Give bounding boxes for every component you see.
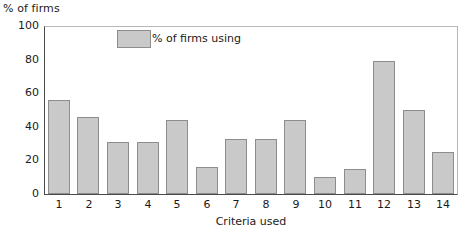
legend-label-pct-firms-using: % of firms using (152, 32, 241, 45)
y-axis-tick-labels: 020406080100 (0, 0, 40, 241)
y-axis-tick-label: 80 (0, 54, 39, 65)
x-axis-tick-label: 8 (251, 198, 281, 211)
bar (403, 110, 425, 194)
bar (166, 120, 188, 194)
bar (284, 120, 306, 194)
bar (107, 142, 129, 194)
bar-chart: % of firms 020406080100 % of firms using… (0, 0, 472, 241)
x-axis-tick-label: 4 (133, 198, 163, 211)
x-axis-tick-label: 5 (162, 198, 192, 211)
x-axis-tick-label: 7 (221, 198, 251, 211)
x-axis-tick-label: 13 (399, 198, 429, 211)
x-axis-tick-label: 11 (340, 198, 370, 211)
bar (432, 152, 454, 194)
x-axis-tick-label: 1 (44, 198, 74, 211)
y-axis-tick-label: 60 (0, 87, 39, 98)
x-axis-title: Criteria used (44, 215, 458, 228)
bar (77, 117, 99, 194)
bars-layer (44, 26, 458, 195)
legend-swatch-pct-firms-using (117, 30, 151, 48)
x-axis-tick-label: 6 (192, 198, 222, 211)
y-axis-tick-label: 0 (0, 188, 39, 199)
bar (344, 169, 366, 194)
y-axis-tick-label: 40 (0, 121, 39, 132)
legend: % of firms using (117, 29, 241, 48)
bar (48, 100, 70, 194)
bar (314, 177, 336, 194)
x-axis-tick-label: 12 (369, 198, 399, 211)
x-axis-tick-label: 9 (281, 198, 311, 211)
bar (196, 167, 218, 194)
x-axis-tick-label: 10 (310, 198, 340, 211)
bar (225, 139, 247, 194)
bar (373, 61, 395, 194)
y-axis-tick-label: 100 (0, 20, 39, 31)
y-axis-tick-label: 20 (0, 154, 39, 165)
x-axis-tick-label: 3 (103, 198, 133, 211)
x-axis-tick-label: 2 (74, 198, 104, 211)
x-axis-tick-labels: 1234567891011121314 (44, 198, 458, 214)
bar (255, 139, 277, 194)
x-axis-tick-label: 14 (428, 198, 458, 211)
bar (137, 142, 159, 194)
